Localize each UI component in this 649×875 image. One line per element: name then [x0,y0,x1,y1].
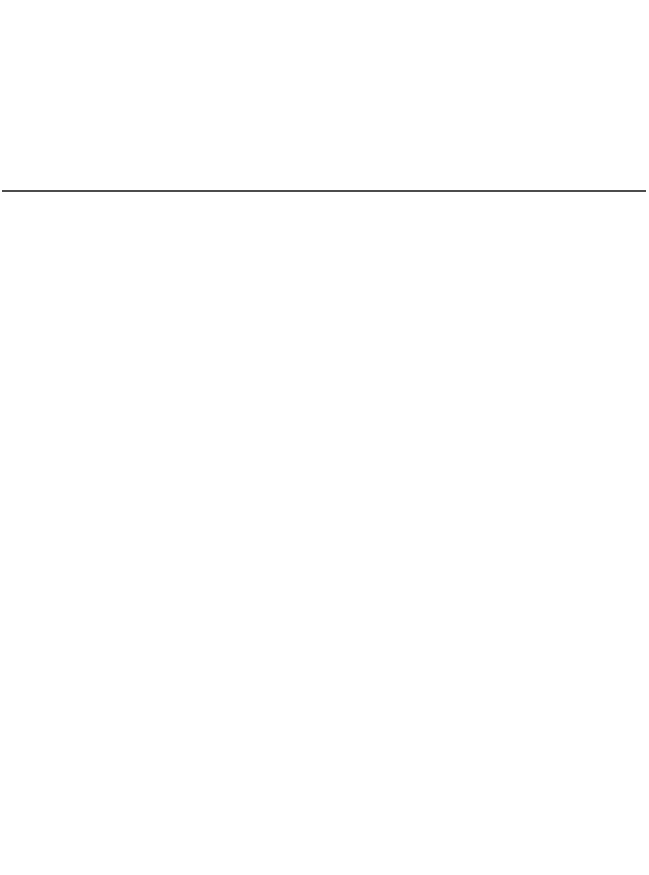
document-page [0,0,649,875]
horizontal-rule [2,190,646,192]
